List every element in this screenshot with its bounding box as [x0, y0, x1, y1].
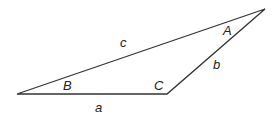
triangle-diagram: c A b B C a [0, 0, 276, 119]
angle-label-a: A [222, 23, 232, 38]
side-label-c: c [120, 35, 127, 50]
angle-label-b: B [63, 78, 72, 93]
side-label-a: a [95, 100, 102, 115]
triangle [17, 9, 265, 94]
angle-label-c: C [154, 78, 164, 93]
side-label-b: b [213, 57, 220, 72]
